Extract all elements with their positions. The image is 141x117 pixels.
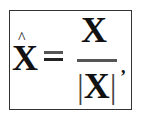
trailing-comma: , <box>121 58 126 76</box>
abs-bar-left: | <box>77 68 84 105</box>
denominator-symbol: X <box>84 66 110 106</box>
abs-bar-right: | <box>110 68 117 105</box>
lhs-symbol: X <box>12 40 38 76</box>
equals-bar-bottom <box>44 58 63 61</box>
numerator-symbol: X <box>81 12 107 48</box>
denominator: |X| <box>77 68 117 104</box>
fraction-bar <box>77 59 117 62</box>
equals-sign <box>44 51 63 61</box>
equals-bar-top <box>44 51 63 54</box>
